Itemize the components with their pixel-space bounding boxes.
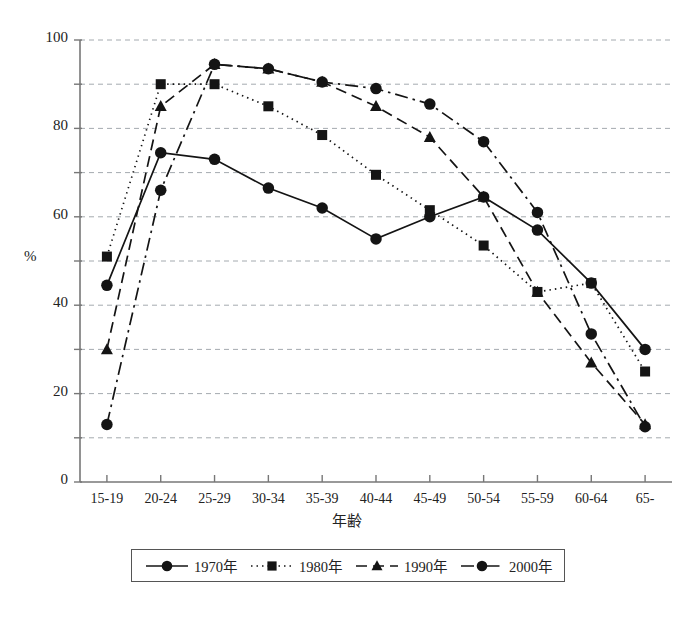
y-tick-100: 100	[20, 29, 68, 46]
chart-container: % 年齢 020406080100 15-1920-2425-2930-3435…	[0, 0, 694, 617]
legend-label: 1990年	[404, 555, 447, 576]
x-tick-55-59: 55-59	[507, 491, 567, 507]
legend-swatch-triangle-icon	[354, 558, 400, 574]
legend-swatch-square-icon	[249, 558, 295, 574]
y-tick-0: 0	[20, 471, 68, 488]
x-tick-45-49: 45-49	[400, 491, 460, 507]
y-tick-20: 20	[20, 383, 68, 400]
legend-label: 1970年	[194, 555, 237, 576]
legend-item-1970年[interactable]: 1970年	[144, 555, 237, 576]
legend-swatch-circle-icon	[459, 558, 505, 574]
legend-item-1990年[interactable]: 1990年	[354, 555, 447, 576]
x-tick-60-64: 60-64	[561, 491, 621, 507]
legend-item-2000年[interactable]: 2000年	[459, 555, 552, 576]
x-axis-title: 年齢	[0, 509, 694, 530]
y-tick-40: 40	[20, 294, 68, 311]
legend-swatch-circle-icon	[144, 558, 190, 574]
series-2000年	[101, 59, 651, 433]
y-tick-80: 80	[20, 117, 68, 134]
legend-label: 1980年	[299, 555, 342, 576]
legend-item-1980年[interactable]: 1980年	[249, 555, 342, 576]
chart-legend: 1970年1980年1990年2000年	[131, 549, 565, 582]
data-series	[101, 58, 651, 432]
y-axis-title: %	[24, 248, 37, 265]
x-tick-40-44: 40-44	[346, 491, 406, 507]
x-tick-35-39: 35-39	[292, 491, 352, 507]
x-tick-65-: 65-	[615, 491, 675, 507]
x-tick-25-29: 25-29	[185, 491, 245, 507]
y-tick-60: 60	[20, 206, 68, 223]
x-tick-20-24: 20-24	[131, 491, 191, 507]
legend-label: 2000年	[509, 555, 552, 576]
x-tick-30-34: 30-34	[238, 491, 298, 507]
x-tick-50-54: 50-54	[454, 491, 514, 507]
x-tick-15-19: 15-19	[77, 491, 137, 507]
